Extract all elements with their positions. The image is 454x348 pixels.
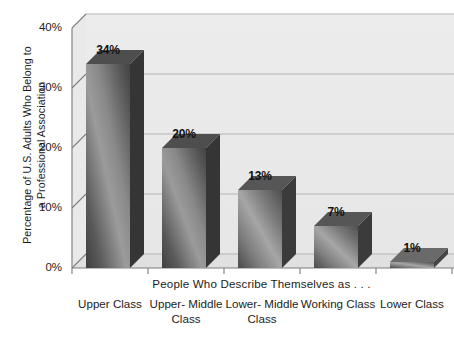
y-tick-label-20: 20% — [20, 141, 62, 153]
bar-front-face-4 — [314, 226, 358, 268]
bar-front-face-3 — [238, 190, 282, 268]
bar-upper-middle-class — [162, 134, 220, 268]
bar-working-class — [314, 212, 372, 268]
bar-side-face-1 — [130, 50, 144, 268]
y-tick-label-30: 30% — [20, 81, 62, 93]
bar-value-label-lower-class: 1% — [382, 241, 442, 255]
bar-side-face-2 — [206, 134, 220, 268]
y-tick-label-40: 40% — [20, 21, 62, 33]
bar-value-label-upper-middle-class: 20% — [154, 127, 214, 141]
bar-front-face-2 — [162, 148, 206, 268]
bar-side-face-3 — [282, 176, 296, 268]
bar-upper-class — [86, 50, 144, 268]
bar-value-label-working-class: 7% — [306, 205, 366, 219]
x-category-label-lower-middle-class: Lower- Middle Class — [220, 296, 304, 326]
y-tick-label-0: 0% — [20, 261, 62, 273]
x-category-label-upper-middle-class: Upper- Middle Class — [144, 296, 228, 326]
x-axis-title: People Who Describe Themselves as . . . — [74, 277, 449, 290]
bar-value-label-lower-middle-class: 13% — [230, 169, 290, 183]
x-category-label-upper-class: Upper Class — [68, 296, 152, 311]
bar-chart: 40% 30% 20% 10% 0% Percentage of U.S. Ad… — [0, 0, 454, 348]
y-tick-label-10: 10% — [20, 201, 62, 213]
x-category-label-lower-class: Lower Class — [370, 296, 454, 311]
bar-front-face-5 — [390, 262, 434, 268]
x-category-label-working-class: Working Class — [296, 296, 380, 311]
bar-lower-middle-class — [238, 176, 296, 268]
bar-value-label-upper-class: 34% — [78, 43, 138, 57]
bar-front-face-1 — [86, 64, 130, 268]
